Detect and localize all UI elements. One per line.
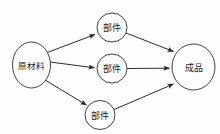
part-top-node-label: 部件 bbox=[103, 22, 121, 33]
raw-material-node-label: 原材料 bbox=[18, 61, 45, 71]
edge-part-top-to-finished-product bbox=[126, 33, 174, 52]
node-raw-material[interactable]: 原材料 bbox=[13, 42, 51, 88]
node-finished-product[interactable]: 成品 bbox=[172, 44, 215, 90]
flow-diagram-canvas: 原材料 部件 部件 部件 成品 bbox=[0, 0, 220, 134]
part-middle-node-label: 部件 bbox=[103, 63, 121, 74]
node-part-middle[interactable]: 部件 bbox=[97, 54, 127, 83]
finished-product-node-label: 成品 bbox=[185, 62, 203, 73]
node-part-top[interactable]: 部件 bbox=[97, 13, 127, 42]
edge-raw-material-to-part-top bbox=[46, 35, 95, 54]
part-bottom-node-label: 部件 bbox=[91, 110, 109, 121]
process-flow-diagram: 原材料 部件 部件 部件 成品 bbox=[0, 0, 220, 134]
node-part-bottom[interactable]: 部件 bbox=[85, 101, 115, 130]
edge-part-bottom-to-finished-product bbox=[113, 84, 174, 110]
edge-raw-material-to-part-middle bbox=[50, 62, 95, 68]
edge-raw-material-to-part-bottom bbox=[45, 80, 87, 105]
